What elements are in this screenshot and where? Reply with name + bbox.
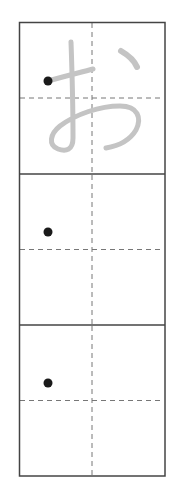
start-dot-icon [44,379,53,388]
start-dot-icon [44,228,53,237]
practice-cell-2[interactable] [20,175,164,325]
start-dot-icon [44,77,53,86]
glyph-stroke-loop [51,42,138,150]
glyph-stroke-tick [121,51,137,67]
practice-grid [0,0,188,483]
writing-practice-sheet [0,0,188,483]
trace-glyph-o [48,42,139,150]
practice-cell-1[interactable] [20,23,164,174]
practice-cell-3[interactable] [20,326,164,476]
